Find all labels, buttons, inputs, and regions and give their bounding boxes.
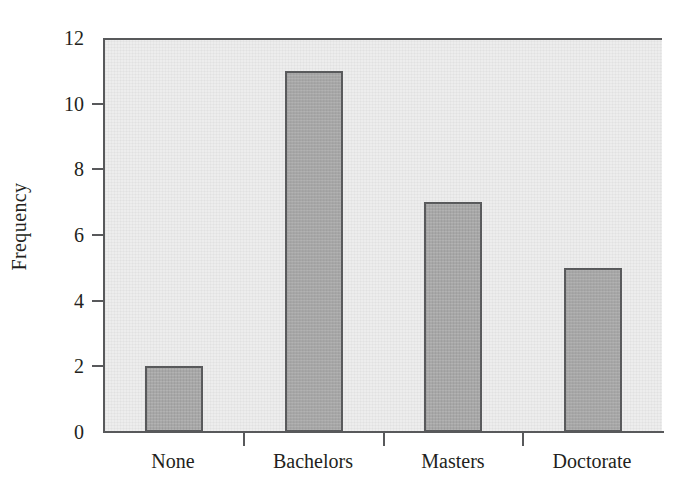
x-axis-tick-label: Bachelors <box>243 446 383 476</box>
x-axis-tick-mark <box>522 433 524 446</box>
bar <box>145 366 203 432</box>
y-axis-tick-mark <box>92 103 103 105</box>
x-axis-tick-label: None <box>103 446 243 476</box>
bar <box>564 268 622 432</box>
x-axis-tick-label: Doctorate <box>522 446 662 476</box>
y-axis-tick-label: 6 <box>74 222 84 248</box>
y-axis-tick-mark <box>92 365 103 367</box>
x-axis-tick-label: Masters <box>383 446 523 476</box>
plot-area <box>103 38 662 432</box>
y-axis-tick-mark <box>92 234 103 236</box>
y-axis-tick-label: 2 <box>74 353 84 379</box>
y-axis-tick-mark <box>92 168 103 170</box>
bar <box>424 202 482 432</box>
bar <box>285 71 343 432</box>
y-axis-tick-label: 12 <box>64 25 84 51</box>
y-axis-label: Frequency <box>8 30 31 424</box>
y-axis-tick-label: 8 <box>74 156 84 182</box>
bar-chart-figure: Frequency 024681012 NoneBachelorsMasters… <box>0 0 690 484</box>
y-axis-tick-label: 4 <box>74 288 84 314</box>
y-axis-tick-label: 0 <box>74 419 84 445</box>
y-axis-tick-label: 10 <box>64 91 84 117</box>
x-axis-tick-mark <box>383 433 385 446</box>
x-axis-tick-mark <box>243 433 245 446</box>
y-axis-tick-mark <box>92 300 103 302</box>
